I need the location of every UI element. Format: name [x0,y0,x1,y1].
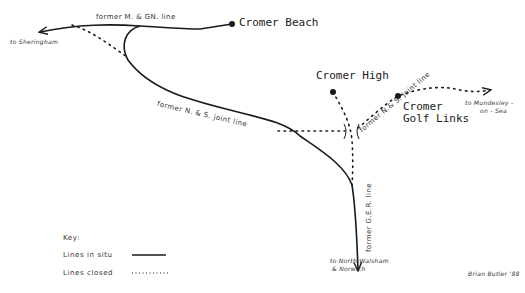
railway-map [0,0,525,293]
dest-sheringham: to Sheringham [10,38,58,45]
dest-mundesley-2: on - Sea [480,107,507,114]
label-mgn-line: former M. & GN. line [96,13,176,21]
key-closed-label: Lines closed [63,269,113,277]
station-dot-cromer-beach [229,21,235,27]
station-cromer-golf-links: Cromer Golf Links [403,101,469,125]
dest-north-walsham-2: & Norwich [332,265,366,272]
ns-joint-line [124,26,358,270]
label-ger-line: former G.E.R. line [365,183,373,252]
station-cromer-beach: Cromer Beach [239,16,318,29]
dest-mundesley-1: to Mundesley - [465,99,514,106]
key-title: Key: [63,234,80,242]
station-dot-cromer-high [330,89,336,95]
key-in-situ-label: Lines in situ [63,251,113,259]
credit-signature: Brian Butler '88 [468,270,520,277]
dest-north-walsham-1: to North Walsham [330,257,389,264]
station-cromer-golf-links-line2: Golf Links [403,113,469,125]
closed-curve-west [72,25,127,57]
station-cromer-high: Cromer High [316,69,389,82]
